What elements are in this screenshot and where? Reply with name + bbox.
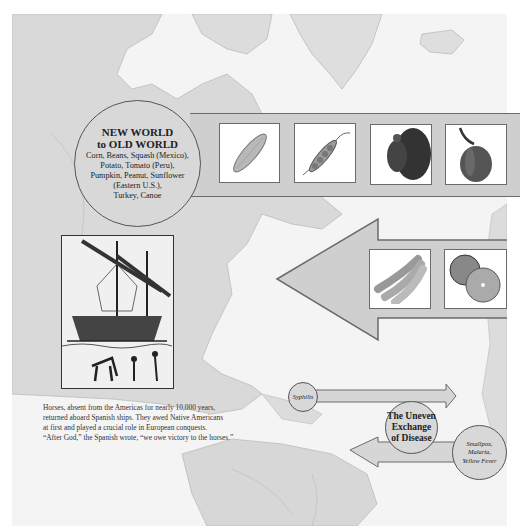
syphilis-circle: Syphilis	[288, 382, 318, 412]
syphilis-label: Syphilis	[293, 393, 314, 402]
smallpox-malaria-yellow-fever-circle: Smallpox, Malaria, Yellow Fever	[452, 425, 507, 480]
uneven-exchange-circle: The Uneven Exchange of Disease	[385, 401, 438, 454]
